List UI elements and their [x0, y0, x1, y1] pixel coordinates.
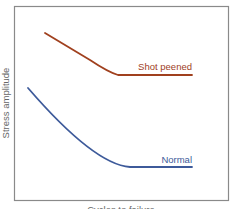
- sn-chart: Shot peened Normal Stress amplitude Cycl…: [0, 0, 233, 209]
- plot-frame: [15, 7, 229, 201]
- y-axis-label: Stress amplitude: [0, 68, 11, 139]
- x-axis-label: Cycles to failure: [87, 204, 155, 209]
- shot-peened-label: Shot peened: [138, 61, 192, 72]
- normal-label: Normal: [161, 154, 192, 165]
